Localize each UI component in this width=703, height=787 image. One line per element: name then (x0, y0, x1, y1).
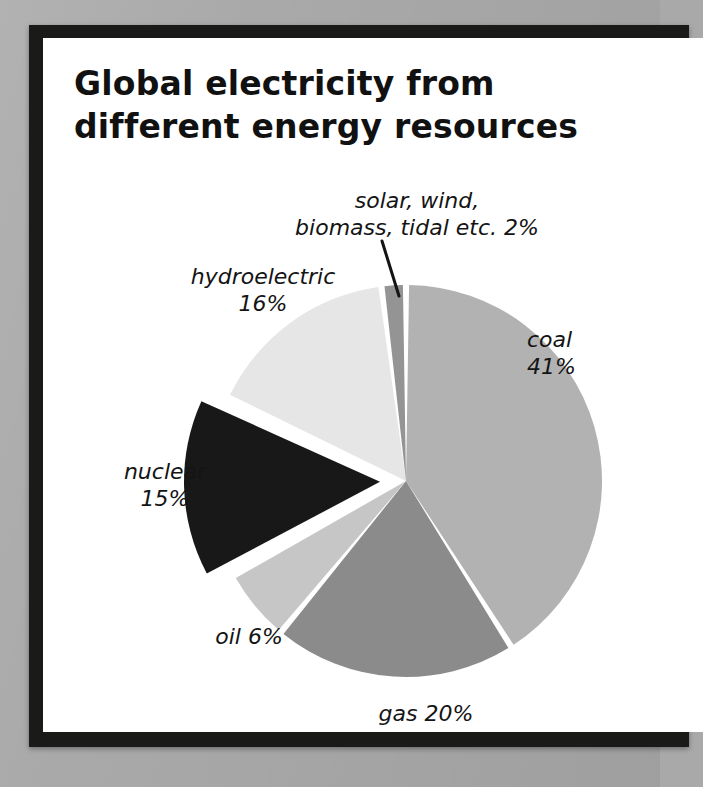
page-sheet: Global electricity from different energy… (43, 38, 703, 732)
pie-label-nuclear: nuclear 15% (91, 458, 239, 512)
pie-label-renewables: solar, wind, biomass, tidal etc. 2% (275, 187, 559, 241)
pie-chart-graphic (43, 38, 703, 732)
pie-label-coal: coal 41% (527, 326, 677, 380)
pie-chart: solar, wind, biomass, tidal etc. 2% hydr… (43, 38, 703, 732)
pie-label-hydroelectric: hydroelectric 16% (165, 263, 361, 317)
page-frame: Global electricity from different energy… (29, 25, 689, 747)
pie-label-gas: gas 20% (331, 700, 521, 727)
pie-label-oil: oil 6% (179, 623, 319, 650)
